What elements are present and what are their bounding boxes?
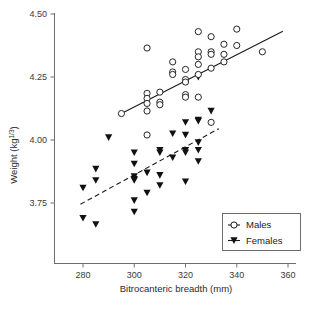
legend-label-males[interactable]: Males [246,219,272,230]
data-point-male [195,54,201,60]
chart-canvas: 3.754.004.254.50 280300320340360 Weight … [0,0,320,314]
data-point-male [208,34,214,40]
data-point-male [144,45,150,51]
chart-background [0,0,320,314]
x-tick-label: 300 [127,270,142,280]
data-point-male [182,94,188,100]
y-tick-label: 4.00 [29,135,47,145]
y-tick-label: 3.75 [29,198,47,208]
data-point-male [221,41,227,47]
data-point-male [195,29,201,35]
x-axis-title: Bitrocanteric breadth (mm) [120,283,232,294]
data-point-male [144,108,150,114]
x-tick-label: 360 [280,270,295,280]
x-tick-label: 280 [75,270,90,280]
y-tick-label: 4.25 [29,72,47,82]
data-point-male [208,119,214,125]
data-point-male [208,51,214,57]
data-point-male [221,59,227,65]
legend[interactable]: MalesFemales [223,214,301,251]
data-point-male [195,94,201,100]
data-point-male [144,132,150,138]
data-point-male [157,102,163,108]
data-point-male [259,49,265,55]
legend-marker-males [231,222,237,228]
data-point-male [170,59,176,65]
legend-label-females[interactable]: Females [246,235,283,246]
data-point-male [170,71,176,77]
y-tick-label: 4.50 [29,9,47,19]
x-tick-label: 340 [229,270,244,280]
data-point-male [208,65,214,71]
data-point-male [182,79,188,85]
data-point-male [182,66,188,72]
data-point-male [195,71,201,77]
data-point-male [234,42,240,48]
data-point-male [157,89,163,95]
x-tick-label: 320 [178,270,193,280]
data-point-male [118,110,124,116]
data-point-male [144,100,150,106]
data-point-male [221,51,227,57]
data-point-male [234,26,240,32]
scatter-plot-figure: 3.754.004.254.50 280300320340360 Weight … [0,0,320,314]
data-point-male [195,61,201,67]
